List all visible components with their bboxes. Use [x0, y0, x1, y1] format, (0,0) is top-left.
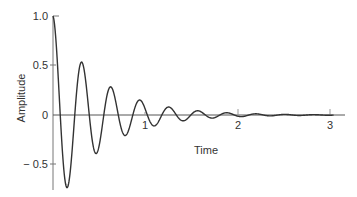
y-axis-label: Amplitude	[15, 74, 27, 123]
x-tick-label-1: 1	[142, 119, 148, 131]
damped-oscillation-line	[53, 16, 334, 188]
y-tick-label-0.5: 0.5	[33, 59, 48, 71]
y-tick-label-neg0.5: − 0.5	[23, 158, 48, 170]
damped-oscillation-chart: 1.0 0.5 0 − 0.5 1 2 3 Time Amplitude	[0, 0, 357, 197]
x-axis-label: Time	[194, 144, 218, 156]
x-ticks: 1 2 3	[142, 109, 333, 131]
y-tick-label-0: 0	[42, 109, 48, 121]
y-ticks: 1.0 0.5 0 − 0.5	[23, 10, 59, 170]
y-tick-label-1: 1.0	[33, 10, 48, 22]
x-tick-label-2: 2	[235, 119, 241, 131]
x-tick-label-3: 3	[327, 119, 333, 131]
